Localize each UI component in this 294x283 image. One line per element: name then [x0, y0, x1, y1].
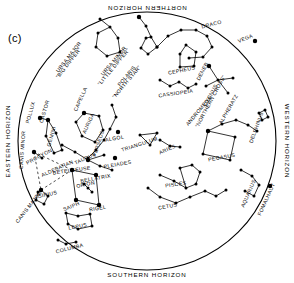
constellation-line-ursa-minor	[148, 47, 157, 54]
constellation-line-perseus	[112, 105, 116, 117]
constellation-line-cepheus	[186, 45, 196, 52]
star-lepus-1	[77, 215, 80, 218]
star-lepus-0	[65, 212, 68, 215]
star-ursa-minor-6	[145, 37, 148, 40]
star-chart-figure: (c) URSA MAJOR"BIG DIPPER"URSA MINOR"LIT…	[0, 0, 294, 283]
star-auriga-5	[75, 121, 78, 124]
horizon-label-south: SOUTHERN HORIZON	[107, 271, 186, 278]
constellation-line-pisces	[192, 165, 200, 172]
constellation-line-pisces	[186, 184, 196, 188]
star-aries-2	[179, 146, 182, 149]
horizon-label-west: WESTERN HORIZON	[284, 104, 291, 179]
star-cygnus-4	[232, 77, 235, 80]
star-taurus-3	[99, 165, 102, 168]
star-delphinus-2	[267, 116, 270, 119]
constellation-label-bellatrix: BELLATRIX	[80, 172, 111, 183]
constellation-line-gemini	[56, 133, 62, 150]
star-ursa-major-4	[106, 55, 109, 58]
constellation-line-aquarius	[241, 170, 252, 176]
star-perseus-1	[115, 116, 118, 119]
constellation-line-ursa-minor	[151, 37, 157, 47]
star-pisces-5	[191, 164, 194, 167]
star-lepus-2	[89, 213, 92, 216]
bright-star-polaris	[137, 15, 141, 19]
star-draco-5	[211, 46, 214, 49]
constellation-line-cetus	[176, 197, 190, 203]
bright-star-capella	[82, 111, 86, 115]
constellation-line-lepus	[78, 214, 90, 216]
constellation-line-cassiopeia	[179, 82, 188, 88]
star-cygnus-2	[227, 92, 230, 95]
constellation-line-ursa-major	[96, 33, 98, 47]
star-delphinus-1	[264, 109, 267, 112]
constellation-line-draco	[157, 36, 168, 47]
constellation-line-lepus	[66, 213, 68, 224]
star-triangulum-1	[156, 132, 159, 135]
constellation-label-pleiades: PLEIADES	[103, 159, 132, 170]
constellation-line-cetus	[190, 191, 205, 197]
constellation-line-pisces	[160, 175, 174, 181]
constellation-line-lepus	[90, 214, 92, 226]
star-ursa-major-6	[97, 32, 100, 35]
star-cetus-1	[159, 196, 162, 199]
constellation-labels-layer: URSA MAJOR"BIG DIPPER"URSA MINOR"LITTLE …	[14, 19, 276, 255]
star-orion-5	[87, 187, 90, 190]
constellation-label-procyon: PROCYON	[25, 147, 53, 166]
star-cetus-3	[189, 196, 192, 199]
constellation-label-pegasus: PEGASUS	[208, 152, 236, 163]
constellation-line-pegasus	[203, 131, 208, 154]
constellation-line-taurus	[62, 145, 75, 152]
constellation-line-gemini	[46, 120, 48, 136]
constellation-line-ursa-minor	[141, 38, 146, 48]
constellation-line-draco	[207, 36, 212, 47]
constellation-line-pegasus	[208, 131, 235, 137]
star-cassiopeia-1	[169, 85, 172, 88]
constellation-line-andromeda	[236, 120, 248, 125]
star-ursa-minor-4	[147, 53, 150, 56]
star-aquarius-0	[240, 169, 243, 172]
constellation-line-draco	[203, 47, 212, 57]
star-cassiopeia-2	[178, 81, 181, 84]
constellation-line-cygnus	[209, 66, 218, 80]
star-pisces-6	[179, 167, 182, 170]
star-ursa-major-5	[95, 46, 98, 49]
star-ursa-minor-5	[140, 47, 143, 50]
constellation-line-aquarius	[254, 185, 259, 196]
constellation-label-vega: VEGA	[237, 32, 254, 44]
star-triangulum-0	[139, 134, 142, 137]
constellation-label-algol: ALGOL	[105, 133, 125, 142]
constellation-label-fomalhaut: FOMALHAUT	[256, 181, 276, 216]
star-draco-6	[202, 56, 205, 59]
constellation-line-draco	[189, 57, 203, 58]
constellation-label-cassiopeia: CASSIOPEIA	[158, 88, 194, 99]
constellation-label-aquarius: AQUARIUS	[239, 178, 257, 208]
star-pegasus-1	[234, 136, 237, 139]
constellation-line-ursa-major	[110, 27, 118, 38]
constellation-line-perseus	[110, 117, 116, 129]
star-taurus-1	[74, 151, 77, 154]
star-cassiopeia-4	[195, 83, 198, 86]
star-andromeda-2	[235, 119, 238, 122]
constellation-line-pisces	[196, 172, 200, 184]
star-auriga-1	[98, 115, 101, 118]
constellation-line-cetus	[148, 188, 160, 197]
star-canis-major-2	[43, 203, 46, 206]
star-aquarius-3	[253, 195, 256, 198]
star-cetus-4	[204, 190, 207, 193]
star-taurus-5	[103, 154, 106, 157]
constellation-line-ursa-major	[100, 19, 110, 27]
star-cygnus-3	[205, 85, 208, 88]
constellation-label-delphinus: DELPHINUS	[248, 111, 265, 144]
bright-star-castor	[46, 118, 50, 122]
constellation-label-pollux: POLLUX	[24, 101, 36, 125]
star-auriga-4	[81, 135, 84, 138]
constellation-line-cetus	[205, 191, 216, 196]
star-orion-6	[91, 191, 94, 194]
star-cepheus-1	[195, 51, 198, 54]
bright-star-vega	[253, 39, 257, 43]
star-taurus-0	[61, 144, 64, 147]
star-draco-4	[206, 35, 209, 38]
constellation-line-cetus	[216, 190, 226, 196]
star-ursa-minor-1	[145, 25, 148, 28]
constellation-label-auriga: AURIGA	[81, 112, 96, 135]
